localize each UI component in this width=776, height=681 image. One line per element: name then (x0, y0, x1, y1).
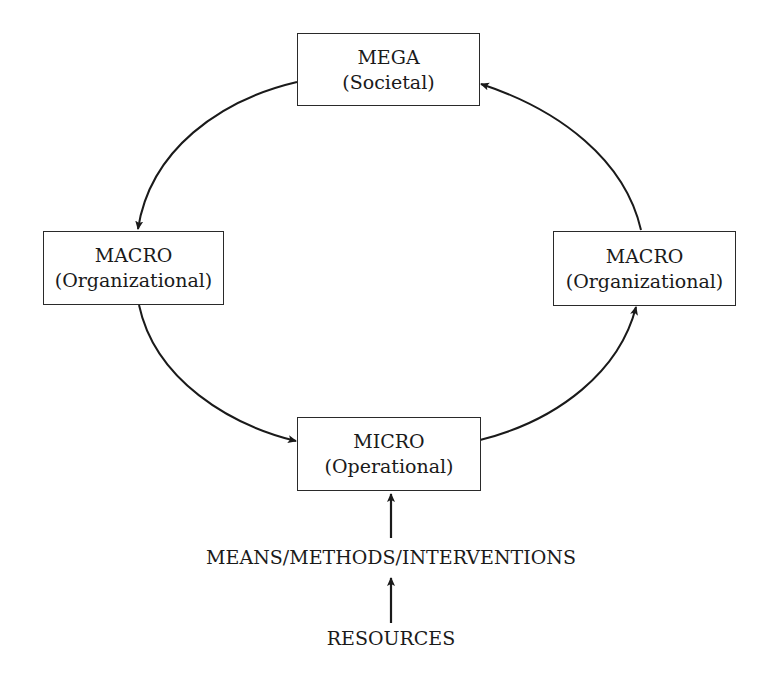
arrow-macro-right-to-mega (481, 84, 641, 230)
node-macro-left: MACRO (Organizational) (43, 231, 224, 305)
node-mega-title: MEGA (357, 45, 419, 70)
arrow-macro-left-to-micro (139, 305, 296, 441)
node-macro-left-subtitle: (Organizational) (55, 268, 212, 293)
node-macro-left-title: MACRO (95, 243, 173, 268)
node-micro-subtitle: (Operational) (324, 454, 453, 479)
means-label: MEANS/METHODS/INTERVENTIONS (206, 546, 576, 568)
node-macro-right: MACRO (Organizational) (553, 231, 736, 306)
node-micro-title: MICRO (353, 429, 424, 454)
node-micro: MICRO (Operational) (297, 417, 481, 491)
node-macro-right-subtitle: (Organizational) (566, 269, 723, 294)
node-macro-right-title: MACRO (606, 244, 684, 269)
resources-label: RESOURCES (327, 627, 456, 649)
arrow-mega-to-macro-left (138, 82, 297, 229)
node-mega-subtitle: (Societal) (342, 70, 434, 95)
arrow-micro-to-macro-right (480, 307, 636, 440)
node-mega: MEGA (Societal) (297, 33, 480, 106)
